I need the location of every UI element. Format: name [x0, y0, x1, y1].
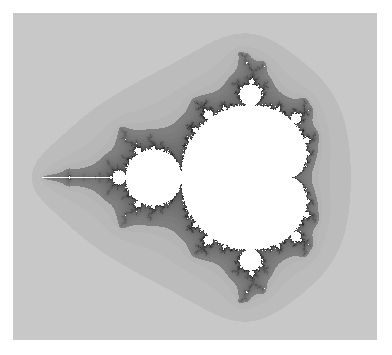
- mandelbrot-set-image: [13, 13, 377, 340]
